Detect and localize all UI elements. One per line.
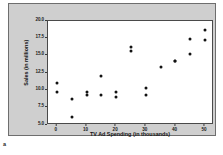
figure-root: 5.07.510.012.515.017.520.0 01020304050 T… bbox=[0, 0, 223, 155]
data-point bbox=[70, 115, 73, 118]
data-point bbox=[144, 86, 147, 89]
plot-frame bbox=[47, 20, 213, 124]
x-tick-mark bbox=[55, 124, 56, 126]
x-tick: 0 bbox=[55, 124, 58, 132]
x-tick: 50 bbox=[202, 124, 207, 132]
data-point bbox=[159, 65, 162, 68]
data-point bbox=[144, 94, 147, 97]
x-tick-mark bbox=[85, 124, 86, 126]
y-tick-label: 5.0 bbox=[38, 122, 44, 127]
y-tick-label: 15.0 bbox=[35, 52, 44, 57]
y-tick-label: 7.5 bbox=[38, 104, 44, 109]
x-tick: 10 bbox=[83, 124, 88, 132]
data-point bbox=[204, 38, 207, 41]
data-point bbox=[189, 52, 192, 55]
data-point bbox=[55, 81, 58, 84]
data-point bbox=[70, 98, 73, 101]
data-point bbox=[85, 94, 88, 97]
x-tick-mark bbox=[174, 124, 175, 126]
data-point bbox=[204, 29, 207, 32]
scatter-chart-panel: 5.07.510.012.515.017.520.0 01020304050 T… bbox=[8, 3, 216, 136]
data-point bbox=[189, 38, 192, 41]
y-tick-label: 12.5 bbox=[35, 70, 44, 75]
data-point bbox=[174, 60, 177, 63]
y-axis-title: Sales (in millions) bbox=[24, 11, 29, 115]
data-point bbox=[100, 75, 103, 78]
data-point bbox=[130, 45, 133, 48]
data-point bbox=[115, 90, 118, 93]
x-tick-mark bbox=[144, 124, 145, 126]
x-axis-title: TV Ad Spending (in thousands) bbox=[47, 132, 213, 137]
plot-area bbox=[48, 21, 212, 123]
x-tick-mark bbox=[115, 124, 116, 126]
y-tick-label: 20.0 bbox=[35, 18, 44, 23]
y-tick-label: 10.0 bbox=[35, 87, 44, 92]
data-point bbox=[100, 94, 103, 97]
data-point bbox=[55, 91, 58, 94]
y-tick-label: 17.5 bbox=[35, 35, 44, 40]
figure-label: a bbox=[3, 142, 6, 148]
data-point bbox=[115, 96, 118, 99]
x-tick-mark bbox=[204, 124, 205, 126]
x-tick: 40 bbox=[172, 124, 177, 132]
data-point bbox=[130, 49, 133, 52]
